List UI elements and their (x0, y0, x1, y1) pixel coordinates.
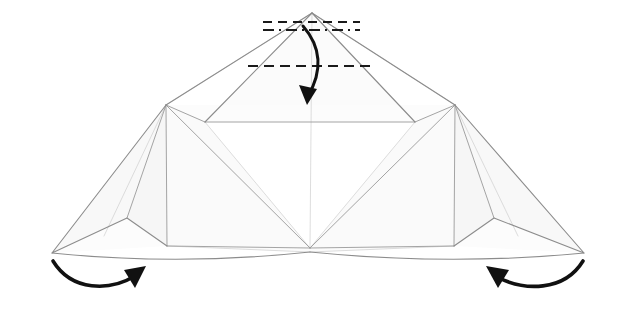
origami-figure (0, 0, 620, 318)
left-wing-fold-arrow-head (124, 266, 146, 288)
right-wing-fold-arrow-shaft (497, 261, 583, 286)
facet-fills (52, 13, 584, 253)
facet-center-band (166, 105, 455, 122)
right-wing-fold-arrow-head (486, 266, 509, 288)
edge-bottom-hull-right (310, 252, 584, 259)
left-wing-fold-arrow-shaft (53, 261, 135, 286)
edge-bottom-hull-left (52, 252, 310, 259)
origami-diagram (0, 0, 620, 318)
right-wing-fold-arrow (486, 261, 583, 288)
left-wing-fold-arrow (53, 261, 146, 288)
